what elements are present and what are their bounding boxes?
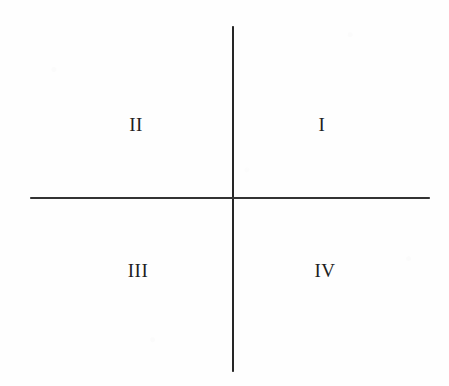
quadrant-label-2: II bbox=[129, 115, 143, 134]
quadrant-label-1: I bbox=[319, 115, 326, 134]
x-axis-line bbox=[30, 197, 430, 199]
quadrant-diagram: I II III IV bbox=[0, 0, 449, 386]
quadrant-label-3: III bbox=[128, 261, 148, 280]
paper-texture bbox=[0, 0, 449, 386]
y-axis-line bbox=[232, 26, 234, 372]
quadrant-label-4: IV bbox=[314, 261, 335, 280]
